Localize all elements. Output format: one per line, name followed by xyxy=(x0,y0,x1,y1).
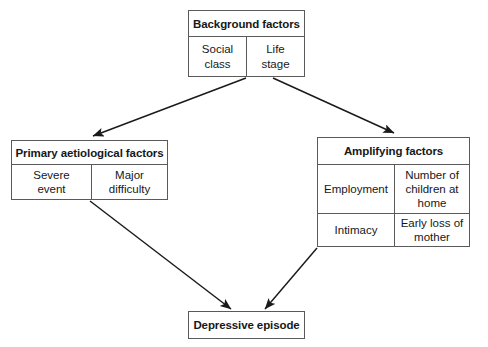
cell-employment[interactable]: Employment xyxy=(318,165,394,213)
box-background-factors-row: Socialclass Lifestage xyxy=(189,36,304,76)
box-amplifying-factors-row-1: Employment Number ofchildren athome xyxy=(318,164,469,213)
arrow-amplifying-to-outcome xyxy=(265,248,317,309)
cell-early-loss-of-mother[interactable]: Early loss ofmother xyxy=(394,214,469,246)
box-depressive-episode[interactable]: Depressive episode xyxy=(188,311,305,339)
box-amplifying-factors-row-2: Intimacy Early loss ofmother xyxy=(318,213,469,246)
cell-major-difficulty[interactable]: Majordifficulty xyxy=(91,165,167,199)
arrow-background-to-amplifying xyxy=(273,78,394,133)
diagram-canvas: Background factors Socialclass Lifestage… xyxy=(0,0,488,347)
box-amplifying-factors[interactable]: Amplifying factors Employment Number ofc… xyxy=(317,137,470,247)
box-primary-aetiological-factors-row: Severeevent Majordifficulty xyxy=(12,164,167,199)
box-depressive-episode-header: Depressive episode xyxy=(189,312,304,338)
arrow-background-to-primary xyxy=(93,78,246,136)
arrow-primary-to-outcome xyxy=(90,201,231,309)
box-amplifying-factors-header: Amplifying factors xyxy=(318,138,469,164)
cell-intimacy[interactable]: Intimacy xyxy=(318,214,394,246)
box-background-factors[interactable]: Background factors Socialclass Lifestage xyxy=(188,10,305,77)
cell-life-stage[interactable]: Lifestage xyxy=(246,37,304,76)
box-primary-aetiological-factors-header: Primary aetiological factors xyxy=(12,141,167,164)
cell-number-of-children-at-home[interactable]: Number ofchildren athome xyxy=(394,165,469,213)
box-primary-aetiological-factors[interactable]: Primary aetiological factors Severeevent… xyxy=(11,140,168,200)
box-background-factors-header: Background factors xyxy=(189,11,304,36)
cell-severe-event[interactable]: Severeevent xyxy=(12,165,91,199)
cell-social-class[interactable]: Socialclass xyxy=(189,37,246,76)
